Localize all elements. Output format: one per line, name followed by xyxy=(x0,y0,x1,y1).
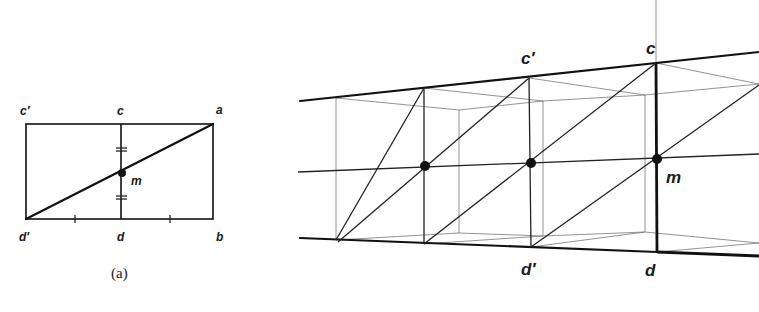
label-m: m xyxy=(666,168,681,187)
label-d: d xyxy=(117,230,125,244)
figure-canvas: c′ c a m d′ d b (a) xyxy=(0,0,759,312)
receding-line xyxy=(656,63,759,84)
back-top-edge xyxy=(336,84,759,110)
receding-line xyxy=(424,88,543,101)
midpoint-dot-2 xyxy=(526,158,536,168)
label-c-prime: c′ xyxy=(20,104,31,118)
diagonal-line-1 xyxy=(338,78,529,242)
midpoint-m-dot xyxy=(652,154,662,164)
label-c-prime: c′ xyxy=(521,49,535,68)
midpoint-m-dot xyxy=(118,169,126,177)
figure-a: c′ c a m d′ d b (a) xyxy=(19,103,223,282)
figure-b: c′ c m d′ d xyxy=(298,0,759,280)
receding-line xyxy=(657,243,759,252)
receding-line xyxy=(529,78,645,95)
diagonal-line xyxy=(336,88,424,240)
label-b: b xyxy=(216,230,223,244)
label-m: m xyxy=(131,174,142,188)
label-d: d xyxy=(645,261,656,280)
caption-a: (a) xyxy=(111,265,128,282)
label-c: c xyxy=(646,39,656,58)
midpoint-dot-1 xyxy=(420,161,430,171)
label-a: a xyxy=(216,103,223,117)
label-d-prime: d′ xyxy=(19,230,30,244)
bottom-edge-line-bold xyxy=(657,252,759,256)
label-d-prime: d′ xyxy=(521,260,536,279)
label-c: c xyxy=(117,104,124,118)
